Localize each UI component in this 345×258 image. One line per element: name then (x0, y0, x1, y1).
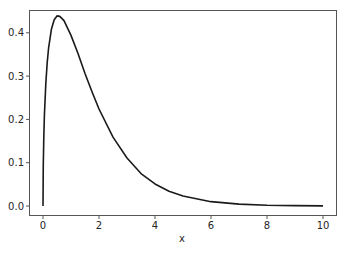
x-tick-label: 4 (152, 220, 158, 231)
x-tick-label: 8 (264, 220, 270, 231)
y-tick-label: 0.1 (8, 157, 24, 168)
y-tick-label: 0.2 (8, 114, 24, 125)
x-tick-label: 0 (40, 220, 46, 231)
x-tick-label: 6 (208, 220, 214, 231)
chart: 0246810 0.00.10.20.30.4 x (0, 0, 345, 258)
x-axis-label: x (179, 233, 185, 244)
figure-background (0, 0, 345, 258)
y-tick-label: 0.3 (8, 71, 24, 82)
y-tick-label: 0.4 (8, 27, 24, 38)
y-tick-label: 0.0 (8, 201, 24, 212)
x-tick-label: 10 (317, 220, 330, 231)
x-tick-label: 2 (96, 220, 102, 231)
